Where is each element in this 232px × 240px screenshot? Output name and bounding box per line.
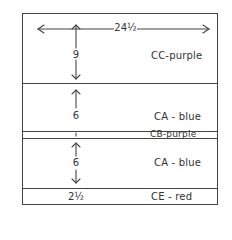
ca2-section-label: CA - blue [154,157,201,168]
ce-height-label: 2½ [64,191,88,202]
cb-section-label: CB-purple [150,129,196,139]
cc-height-label: 9 [71,49,81,60]
width-dimension-label: 24½ [114,22,137,33]
ca2-height-label: 6 [71,157,81,168]
cc-section-label: CC-purple [151,50,202,61]
ce-section-label: CE - red [151,191,192,202]
ca1-height-label: 6 [71,110,81,121]
ca1-section-label: CA - blue [154,111,201,122]
